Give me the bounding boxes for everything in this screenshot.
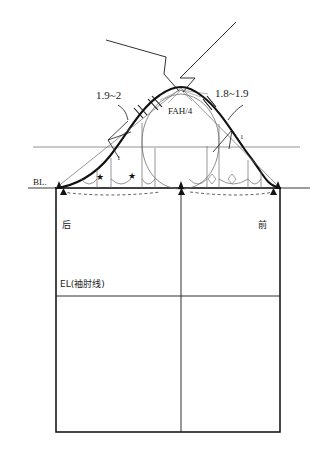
diamond-marker-2 [228, 174, 236, 184]
label-elbow-line: EL(袖肘线) [60, 280, 105, 289]
sleeve-pattern-drawing: ★ ★ 1.9~2 1.8~1.9 FAH/4 1 1 BL. EL(袖肘线) … [0, 0, 321, 450]
notch-marker-right-body [270, 188, 277, 195]
notch-marker-centre [178, 181, 184, 189]
leader-right-measure [228, 105, 243, 120]
diamond-markers [208, 174, 236, 184]
cap-chord-left [56, 88, 181, 188]
sleeve-body-rect [56, 188, 280, 432]
notch-marker-right [275, 181, 281, 189]
star-marker-1: ★ [96, 172, 104, 182]
diamond-marker-1 [208, 174, 216, 184]
label-center-cap-measure: FAH/4 [168, 107, 192, 116]
label-left-ease-mark: 1 [117, 155, 121, 162]
star-marker-2: ★ [128, 171, 136, 181]
gather-dashed-line [62, 192, 274, 195]
label-right-ease-mark: 1 [240, 134, 244, 141]
leader-line-right [180, 22, 236, 92]
label-front-panel: 前 [258, 221, 267, 230]
label-biceps-line: BL. [33, 178, 47, 187]
sleeve-cap-curve [56, 87, 280, 188]
cap-drop-lines [97, 123, 261, 188]
star-markers: ★ ★ [96, 171, 136, 182]
leader-line-left [106, 40, 179, 91]
notch-marker-left [56, 181, 62, 189]
label-left-cap-measure: 1.9~2 [96, 90, 121, 101]
label-back-panel: 后 [62, 221, 71, 230]
notch-marker-left-body [60, 188, 67, 195]
chord-angle-arrows [108, 121, 243, 158]
label-right-cap-measure: 1.8~1.9 [215, 88, 248, 99]
pattern-canvas: ★ ★ [0, 0, 321, 450]
leader-left-measure [118, 105, 128, 120]
